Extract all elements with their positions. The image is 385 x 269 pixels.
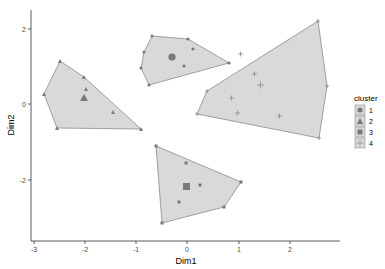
svg-text:2: 2 [369,118,373,125]
cluster-hulls [44,21,327,223]
svg-text:0: 0 [22,101,26,108]
x-axis-label: Dim1 [175,256,196,266]
svg-text:2: 2 [22,26,26,33]
svg-text:-3: -3 [31,246,37,253]
svg-text:2: 2 [288,246,292,253]
svg-text:1: 1 [237,246,241,253]
y-axis-label: Dim2 [6,114,16,135]
svg-text:0: 0 [185,246,189,253]
svg-text:1: 1 [369,107,373,114]
centroid-cluster-1 [168,53,175,60]
legend: cluster 1 2 3 4 [354,94,378,148]
svg-text:-2: -2 [20,177,26,184]
hull-cluster-1 [141,36,229,85]
legend-key-1: 1 [355,105,373,115]
x-tick-labels: -3 -2 -1 0 1 2 [31,246,292,253]
svg-text:4: 4 [369,140,373,147]
hull-cluster-4 [197,21,327,138]
legend-title: cluster [354,94,378,103]
svg-text:-1: -1 [133,246,139,253]
legend-key-2: 2 [355,116,373,126]
svg-text:-2: -2 [82,246,88,253]
svg-text:3: 3 [369,129,373,136]
hull-cluster-2 [44,61,141,129]
y-tick-labels: 2 0 -2 [20,26,26,184]
legend-key-3: 3 [355,127,373,137]
cluster-plot: -3 -2 -1 0 1 2 2 0 -2 Dim1 Dim2 cluster … [0,0,385,269]
centroid-cluster-3 [183,183,190,190]
legend-key-4: 4 [355,138,373,148]
